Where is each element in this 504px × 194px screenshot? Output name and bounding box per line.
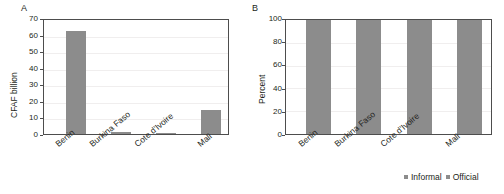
legend-label-informal: Informal bbox=[411, 172, 442, 182]
panel-a-bar-cote-divoire bbox=[156, 133, 176, 134]
panel-a-plot-area bbox=[43, 19, 229, 135]
panel-a-bar-mali bbox=[201, 110, 221, 134]
panel-a-ytick-30: 30 bbox=[22, 81, 38, 89]
panel-a-bar-benin bbox=[66, 31, 86, 134]
panel-a-ytick-0: 0 bbox=[22, 131, 38, 139]
panel-a-ytick-40: 40 bbox=[22, 65, 38, 73]
panel-a-bar-burkina-faso bbox=[111, 132, 131, 134]
panel-a-ytick-50: 50 bbox=[22, 48, 38, 56]
panel-b-plot-area bbox=[285, 19, 492, 135]
panel-b-ytick-mark-0 bbox=[282, 135, 285, 136]
legend-item-official[interactable]: Official bbox=[446, 172, 479, 182]
legend: Informal Official bbox=[404, 172, 479, 182]
legend-swatch-informal-icon bbox=[404, 175, 408, 179]
panel-a-label: A bbox=[21, 3, 27, 13]
panel-a-ytick-10: 10 bbox=[22, 114, 38, 122]
legend-swatch-official-icon bbox=[446, 175, 450, 179]
panel-b-ytick-40: 40 bbox=[264, 85, 282, 93]
panel-a-ytick-70: 70 bbox=[22, 15, 38, 23]
legend-label-official: Official bbox=[453, 172, 479, 182]
panel-a-ytick-60: 60 bbox=[22, 32, 38, 40]
panel-b-bar-benin bbox=[306, 20, 331, 134]
panel-b-ytick-60: 60 bbox=[264, 61, 282, 69]
panel-a-ytick-mark-0 bbox=[40, 135, 43, 136]
figure-container: A CFAF billion 70 60 50 40 30 20 10 0 bbox=[0, 0, 504, 194]
panel-b-ytick-0: 0 bbox=[264, 131, 282, 139]
panel-a: A CFAF billion 70 60 50 40 30 20 10 0 bbox=[0, 0, 252, 194]
panel-b-ytick-100: 100 bbox=[264, 15, 282, 23]
legend-item-informal[interactable]: Informal bbox=[404, 172, 442, 182]
panel-b-ytick-80: 80 bbox=[264, 38, 282, 46]
panel-b-bar-mali bbox=[457, 20, 482, 134]
panel-a-ytick-20: 20 bbox=[22, 98, 38, 106]
panel-b-ytick-20: 20 bbox=[264, 108, 282, 116]
panel-b-label: B bbox=[252, 3, 258, 13]
panel-a-y-axis-title: CFAF billion bbox=[9, 72, 19, 118]
